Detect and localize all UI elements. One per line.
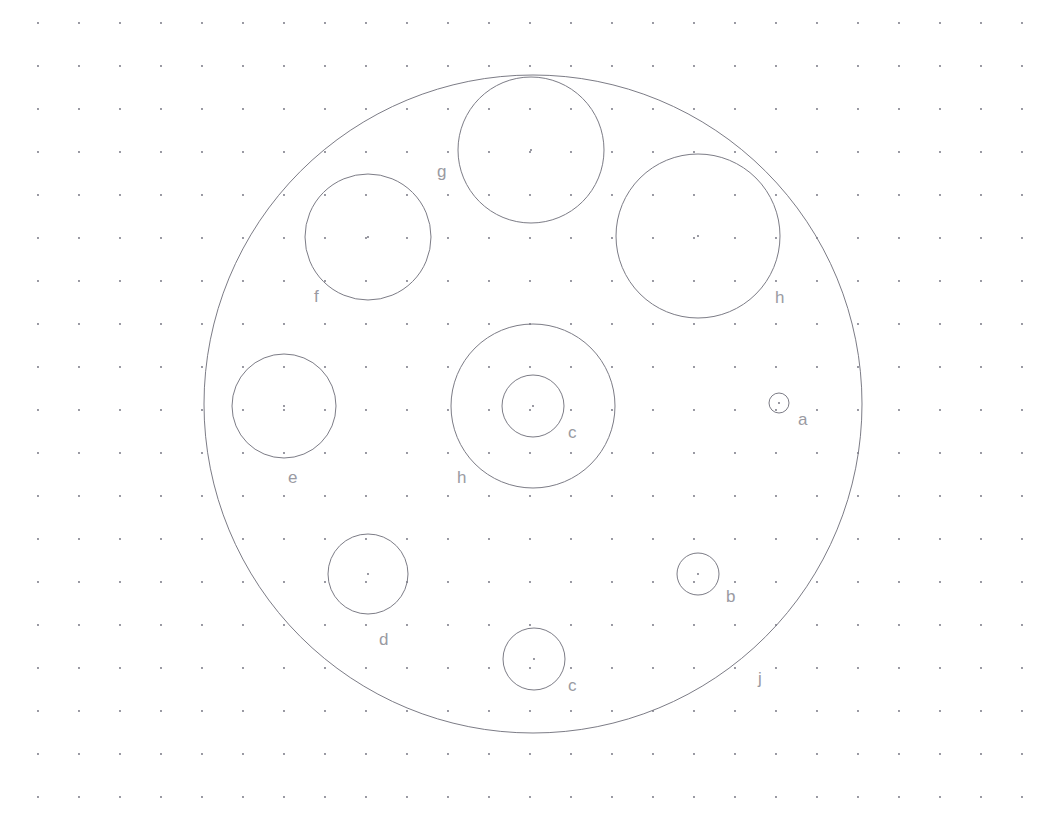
grid-dot xyxy=(488,194,490,196)
grid-dot xyxy=(78,796,80,798)
grid-dot xyxy=(939,452,941,454)
grid-dot xyxy=(775,710,777,712)
grid-dot xyxy=(488,108,490,110)
grid-dot xyxy=(816,409,818,411)
grid-dot xyxy=(160,237,162,239)
grid-dot xyxy=(447,65,449,67)
grid-dot xyxy=(242,22,244,24)
grid-dot xyxy=(611,409,613,411)
grid-dot xyxy=(693,22,695,24)
grid-dot xyxy=(775,366,777,368)
grid-dot xyxy=(570,710,572,712)
grid-dot xyxy=(283,538,285,540)
grid-dot xyxy=(37,280,39,282)
grid-dot xyxy=(488,452,490,454)
grid-dot xyxy=(78,323,80,325)
grid-dot xyxy=(939,796,941,798)
grid-dot xyxy=(816,65,818,67)
grid-dot xyxy=(980,452,982,454)
grid-dot xyxy=(939,237,941,239)
grid-dot xyxy=(857,753,859,755)
grid-dot xyxy=(365,65,367,67)
drawing-svg: jabcdefghhc xyxy=(0,0,1050,815)
grid-dot xyxy=(734,194,736,196)
grid-dot xyxy=(201,495,203,497)
grid-dot xyxy=(1021,323,1023,325)
grid-dot xyxy=(529,624,531,626)
grid-dot xyxy=(283,624,285,626)
grid-dot xyxy=(898,280,900,282)
grid-dot xyxy=(242,409,244,411)
grid-dot xyxy=(939,409,941,411)
grid-dot xyxy=(242,366,244,368)
grid-dot xyxy=(406,323,408,325)
grid-dot xyxy=(898,581,900,583)
grid-dot xyxy=(406,624,408,626)
grid-dot xyxy=(1021,624,1023,626)
grid-dot xyxy=(201,452,203,454)
grid-dot xyxy=(78,280,80,282)
hole-center-mark-f-5 xyxy=(367,236,369,238)
grid-dot xyxy=(980,710,982,712)
grid-dot xyxy=(406,65,408,67)
grid-dot xyxy=(160,409,162,411)
grid-dot xyxy=(898,710,900,712)
grid-dot xyxy=(201,323,203,325)
grid-dot xyxy=(898,22,900,24)
grid-dot xyxy=(242,237,244,239)
grid-dot xyxy=(980,108,982,110)
grid-dot xyxy=(242,710,244,712)
grid-dot xyxy=(734,624,736,626)
hole-center-mark-c-9 xyxy=(532,405,534,407)
grid-dot xyxy=(570,22,572,24)
grid-dot xyxy=(570,667,572,669)
grid-dot xyxy=(447,323,449,325)
grid-dot xyxy=(980,323,982,325)
grid-dot xyxy=(447,452,449,454)
grid-dot xyxy=(898,65,900,67)
grid-dot xyxy=(693,323,695,325)
grid-dot xyxy=(775,796,777,798)
grid-dot xyxy=(37,710,39,712)
grid-dot xyxy=(37,323,39,325)
grid-dot xyxy=(611,538,613,540)
grid-dot xyxy=(980,667,982,669)
grid-dot xyxy=(488,409,490,411)
grid-dot xyxy=(447,108,449,110)
grid-dot xyxy=(283,366,285,368)
grid-dot xyxy=(78,581,80,583)
grid-dot xyxy=(816,495,818,497)
grid-dot xyxy=(980,65,982,67)
outer-boundary-circle xyxy=(204,75,862,733)
grid-dot xyxy=(406,538,408,540)
grid-dot xyxy=(898,624,900,626)
grid-dot xyxy=(939,581,941,583)
grid-dot xyxy=(1021,753,1023,755)
grid-dot xyxy=(980,194,982,196)
grid-dot xyxy=(78,366,80,368)
grid-dot xyxy=(775,108,777,110)
grid-dot xyxy=(1021,237,1023,239)
grid-dot xyxy=(447,753,449,755)
grid-dot xyxy=(160,366,162,368)
grid-dot xyxy=(488,538,490,540)
grid-dot xyxy=(119,194,121,196)
grid-dot xyxy=(283,65,285,67)
grid-dot xyxy=(78,753,80,755)
grid-dot xyxy=(447,237,449,239)
grid-dot xyxy=(652,452,654,454)
grid-dot xyxy=(37,65,39,67)
grid-dot xyxy=(242,796,244,798)
grid-dot xyxy=(242,323,244,325)
grid-dot xyxy=(611,667,613,669)
grid-dot xyxy=(447,538,449,540)
grid-dot xyxy=(529,237,531,239)
grid-dot xyxy=(693,280,695,282)
grid-dot xyxy=(898,753,900,755)
grid-dot xyxy=(652,538,654,540)
grid-dot xyxy=(242,151,244,153)
hole-center-mark-b-1 xyxy=(697,573,699,575)
grid-dot xyxy=(365,710,367,712)
grid-dot xyxy=(37,194,39,196)
hole-label-a-0: a xyxy=(798,410,808,429)
